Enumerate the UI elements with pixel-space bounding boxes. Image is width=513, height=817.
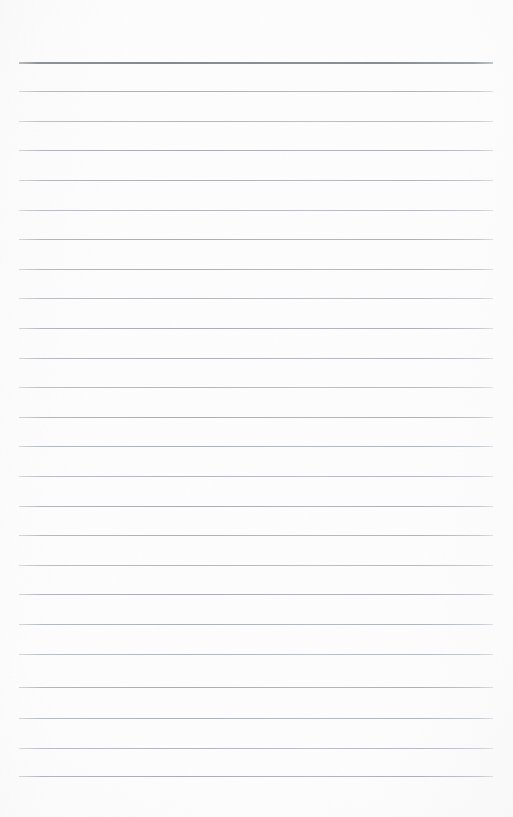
ruled-lines-container [0,0,513,817]
rule-line [19,718,493,719]
rule-line [19,654,493,655]
rule-line [19,417,493,418]
rule-line [19,446,493,447]
header-rule-line [19,62,493,64]
rule-line [19,239,493,240]
notebook-page [0,0,513,817]
rule-line [19,594,493,595]
rule-line [19,358,493,359]
rule-line [19,210,493,211]
rule-line [19,776,493,777]
rule-line [19,748,493,749]
rule-line [19,624,493,625]
rule-line [19,387,493,388]
rule-line [19,687,493,688]
rule-line [19,476,493,477]
rule-line [19,121,493,122]
rule-line [19,180,493,181]
rule-line [19,535,493,536]
rule-line [19,150,493,151]
rule-line [19,91,493,92]
rule-line [19,506,493,507]
rule-line [19,565,493,566]
rule-line [19,328,493,329]
rule-line [19,298,493,299]
rule-line [19,269,493,270]
